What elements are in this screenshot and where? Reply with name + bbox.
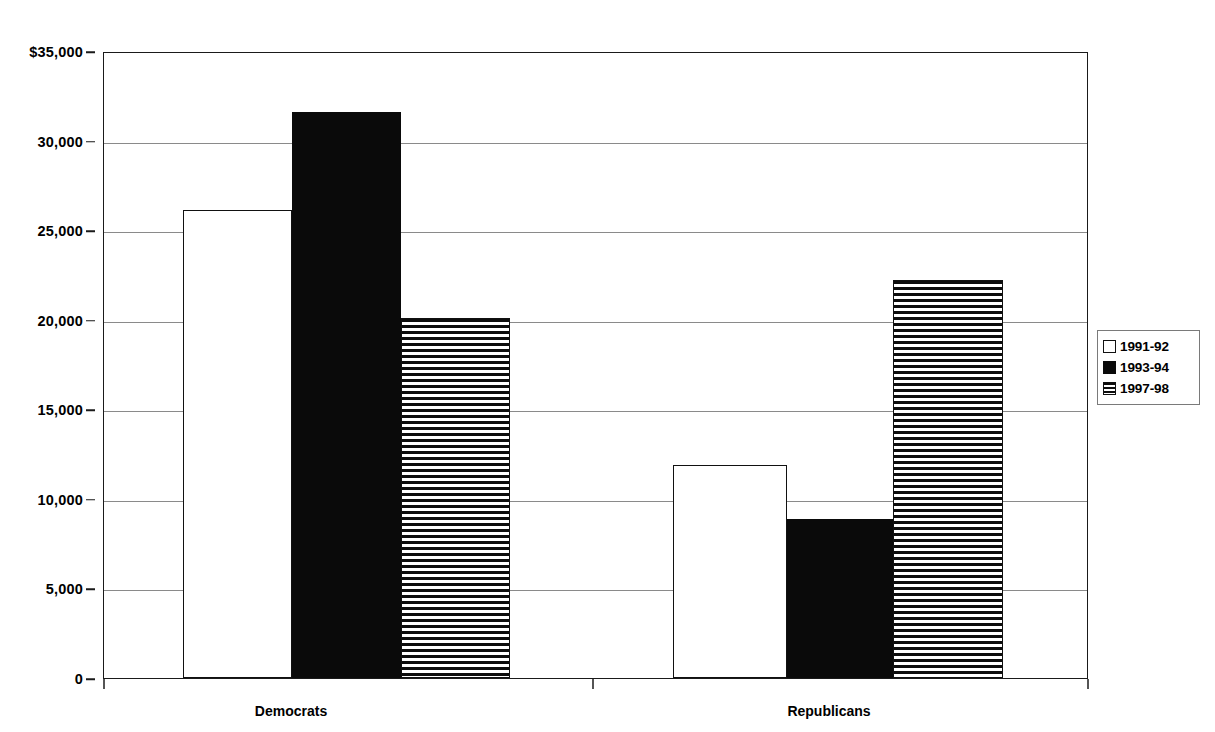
bar-chart-figure: 05,00010,00015,00020,00025,00030,000$35,… [0, 0, 1215, 732]
legend: 1991-921993-941997-98 [1097, 330, 1200, 405]
y-tick-mark [86, 589, 95, 591]
solid-square-swatch [1103, 361, 1116, 374]
y-tick-label: 10,000 [37, 492, 83, 508]
y-tick-mark [86, 320, 95, 322]
y-tick-mark [86, 678, 95, 680]
x-category-label-democrats: Democrats [255, 703, 327, 719]
y-tick-label: 25,000 [37, 223, 83, 239]
legend-item-1993-94: 1993-94 [1103, 357, 1195, 378]
legend-item-1991-92: 1991-92 [1103, 336, 1195, 357]
bar-democrats-1993-94 [292, 112, 401, 678]
legend-item-1997-98: 1997-98 [1103, 378, 1195, 399]
y-tick-mark [86, 230, 95, 232]
x-tick-mark [592, 679, 594, 689]
open-square-swatch [1103, 340, 1116, 353]
y-tick-label: 5,000 [46, 581, 83, 597]
y-tick-mark [86, 51, 95, 53]
y-tick-mark [86, 141, 95, 143]
bar-democrats-1997-98 [401, 318, 510, 678]
y-tick-label: 15,000 [37, 402, 83, 418]
y-tick-label: $35,000 [29, 44, 83, 60]
bar-republicans-1997-98 [893, 280, 1003, 678]
y-tick-label: 20,000 [37, 313, 83, 329]
plot-area [103, 52, 1088, 679]
legend-label: 1991-92 [1120, 339, 1169, 354]
bar-democrats-1991-92 [183, 210, 292, 678]
y-tick-mark [86, 499, 95, 501]
y-tick-mark [86, 410, 95, 412]
y-tick-label: 30,000 [37, 134, 83, 150]
x-tick-mark [103, 679, 105, 689]
x-category-label-republicans: Republicans [787, 703, 870, 719]
bar-republicans-1993-94 [787, 519, 893, 678]
y-axis: 05,00010,00015,00020,00025,00030,000$35,… [0, 52, 95, 679]
x-tick-mark [1087, 679, 1089, 689]
y-tick-label: 0 [75, 671, 83, 687]
bar-republicans-1991-92 [673, 465, 787, 678]
legend-label: 1997-98 [1120, 381, 1169, 396]
gridline [104, 143, 1087, 144]
legend-label: 1993-94 [1120, 360, 1169, 375]
x-axis: DemocratsRepublicans [103, 679, 1088, 732]
striped-square-swatch [1103, 382, 1116, 395]
